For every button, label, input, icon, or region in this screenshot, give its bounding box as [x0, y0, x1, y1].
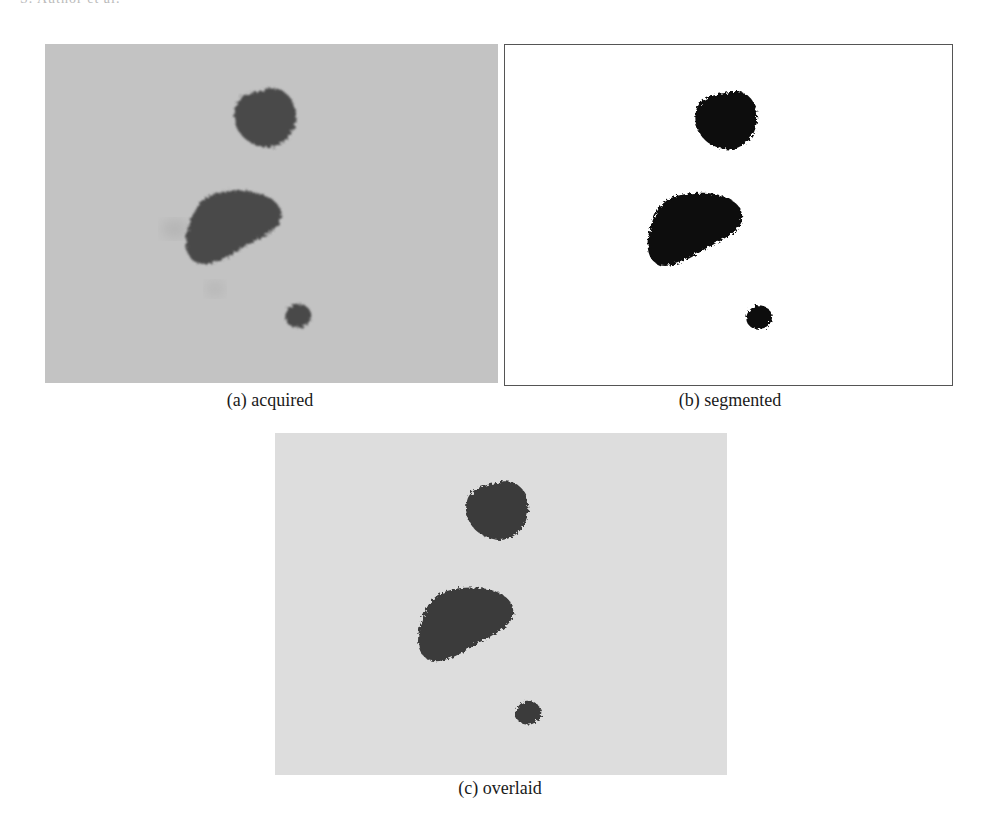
- segmented-image: [505, 45, 952, 385]
- large-round-blob-b: [695, 91, 757, 149]
- small-blob-c: [515, 701, 541, 725]
- panel-acquired: [45, 44, 498, 383]
- small-blob-a: [285, 304, 311, 328]
- elongated-blob-a: [186, 191, 281, 265]
- elongated-blob-b: [648, 193, 743, 266]
- panel-segmented: [504, 44, 953, 386]
- smudge: [205, 281, 225, 297]
- running-header: S. Author et al.: [20, 0, 120, 7]
- caption-acquired: (a) acquired: [170, 390, 370, 411]
- small-blob-b: [746, 305, 772, 329]
- acquired-image: [45, 44, 498, 383]
- overlaid-image: [275, 433, 727, 775]
- panel-overlaid: [275, 433, 727, 775]
- large-round-blob-c: [466, 481, 528, 540]
- caption-segmented: (b) segmented: [630, 390, 830, 411]
- large-round-blob-a: [234, 88, 296, 147]
- smudge: [161, 219, 189, 239]
- caption-overlaid: (c) overlaid: [400, 778, 600, 799]
- elongated-blob-c: [418, 588, 513, 662]
